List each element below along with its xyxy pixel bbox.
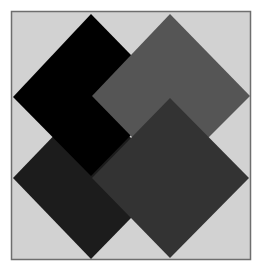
diamond-figure xyxy=(0,0,258,268)
figure-canvas xyxy=(0,0,258,268)
